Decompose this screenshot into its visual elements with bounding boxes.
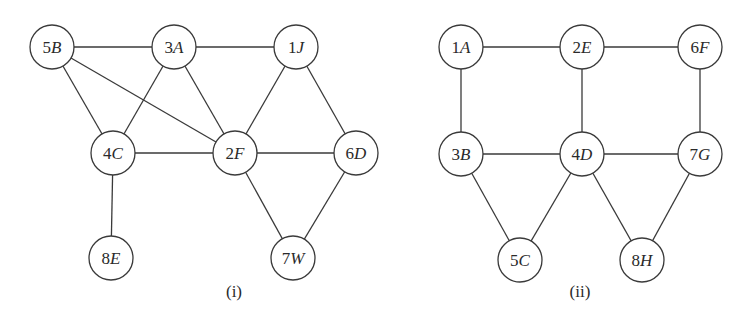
- node-8H: 8H: [620, 238, 664, 282]
- node-label: 4D: [572, 145, 594, 164]
- node-label: 5C: [510, 251, 531, 270]
- node-8E: 8E: [89, 236, 133, 280]
- node-label: 3B: [452, 145, 472, 164]
- node-4C: 4C: [91, 131, 135, 175]
- node-5B: 5B: [30, 25, 74, 69]
- node-label: 2F: [226, 144, 246, 163]
- node-label: 6D: [346, 144, 368, 163]
- graph-i-caption: (i): [226, 282, 242, 301]
- node-2E: 2E: [560, 25, 604, 69]
- diagram-canvas: 5B3A1J4C2F6D8E7W (i) 1A2E6F3B4D7G5C8H (i…: [0, 0, 754, 320]
- node-3A: 3A: [152, 25, 196, 69]
- node-1J: 1J: [274, 25, 318, 69]
- graph-ii: 1A2E6F3B4D7G5C8H (ii): [439, 25, 722, 301]
- node-5C: 5C: [498, 238, 542, 282]
- node-1A: 1A: [439, 25, 483, 69]
- graph-ii-caption: (ii): [570, 282, 591, 301]
- node-2F: 2F: [213, 131, 257, 175]
- graph-ii-nodes: 1A2E6F3B4D7G5C8H: [439, 25, 722, 282]
- node-label: 1J: [288, 38, 306, 57]
- node-label: 7G: [690, 145, 711, 164]
- node-label: 8H: [632, 251, 655, 270]
- node-label: 2E: [573, 38, 593, 57]
- graph-diagram: 5B3A1J4C2F6D8E7W (i) 1A2E6F3B4D7G5C8H (i…: [0, 0, 754, 320]
- node-label: 3A: [165, 38, 185, 57]
- node-6F: 6F: [678, 25, 722, 69]
- node-4D: 4D: [560, 132, 604, 176]
- node-label: 5B: [43, 38, 63, 57]
- node-label: 6F: [691, 38, 711, 57]
- node-label: 7W: [282, 249, 307, 268]
- node-label: 1A: [452, 38, 472, 57]
- graph-i: 5B3A1J4C2F6D8E7W (i): [30, 25, 378, 301]
- node-label: 4C: [103, 144, 124, 163]
- node-6D: 6D: [334, 131, 378, 175]
- node-7W: 7W: [271, 236, 315, 280]
- node-7G: 7G: [678, 132, 722, 176]
- node-3B: 3B: [439, 132, 483, 176]
- node-label: 8E: [102, 249, 122, 268]
